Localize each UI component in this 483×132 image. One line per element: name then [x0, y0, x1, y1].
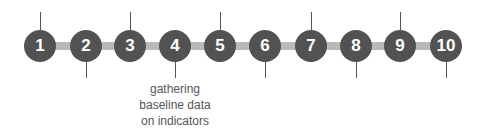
- tick-down: [175, 62, 176, 78]
- step-node-5: 5: [204, 30, 236, 62]
- step-node-7: 7: [295, 30, 327, 62]
- tick-down: [265, 62, 266, 78]
- tick-up: [130, 12, 131, 30]
- tick-up: [311, 12, 312, 30]
- label-line: gathering: [125, 81, 225, 97]
- step-node-10: 10: [430, 30, 462, 62]
- tick-up: [400, 12, 401, 30]
- tick-down: [446, 62, 447, 78]
- tick-up: [40, 12, 41, 30]
- step-node-6: 6: [249, 30, 281, 62]
- step-node-3: 3: [114, 30, 146, 62]
- step-node-8: 8: [340, 30, 372, 62]
- step-node-4: 4: [159, 30, 191, 62]
- tick-up: [220, 12, 221, 30]
- tick-down: [356, 62, 357, 78]
- step-4-label: gathering baseline data on indicators: [125, 81, 225, 129]
- tick-down: [86, 62, 87, 78]
- step-node-9: 9: [384, 30, 416, 62]
- label-line: baseline data: [125, 97, 225, 113]
- step-node-1: 1: [24, 30, 56, 62]
- label-line: on indicators: [125, 113, 225, 129]
- step-node-2: 2: [70, 30, 102, 62]
